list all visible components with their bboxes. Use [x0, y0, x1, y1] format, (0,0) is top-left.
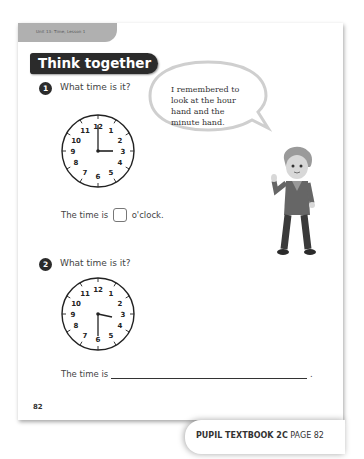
footer-book-title: PUPIL TEXTBOOK 2C: [196, 431, 288, 440]
question-prompt: What time is it?: [60, 258, 131, 268]
answer-row-2: The time is .: [61, 369, 313, 379]
unit-header-tab: Unit 13: Time, Lesson 1: [18, 23, 117, 42]
answer-suffix: .: [310, 369, 313, 379]
boy-character-illustration: [270, 145, 320, 260]
unit-label: Unit 13: Time, Lesson 1: [36, 29, 85, 34]
clock-face-half-past-two: 1212 345 678 91011: [60, 276, 136, 352]
question-prompt: What time is it?: [60, 82, 131, 92]
answer-input-box[interactable]: [113, 208, 127, 222]
answer-write-line[interactable]: [111, 370, 307, 379]
svg-text:6: 6: [96, 336, 101, 344]
page-number: 82: [33, 403, 43, 411]
svg-text:9: 9: [71, 148, 76, 156]
svg-text:6: 6: [96, 173, 101, 181]
answer-prefix: The time is: [61, 210, 108, 220]
svg-text:8: 8: [74, 322, 79, 330]
speech-bubble-text: I remembered to look at the hour hand an…: [171, 84, 261, 128]
svg-text:5: 5: [109, 169, 114, 177]
bubble-line: look at the hour: [171, 95, 261, 106]
svg-text:11: 11: [80, 127, 90, 135]
svg-text:2: 2: [118, 300, 123, 308]
answer-row-1: The time is o'clock.: [61, 208, 164, 222]
svg-text:1: 1: [109, 290, 114, 298]
bubble-line: I remembered to: [171, 84, 261, 95]
answer-prefix: The time is: [61, 369, 108, 379]
svg-text:4: 4: [118, 159, 123, 167]
bubble-line: minute hand.: [171, 117, 261, 128]
svg-text:9: 9: [71, 311, 76, 319]
svg-text:11: 11: [80, 290, 90, 298]
footer-page-ref: PAGE 82: [290, 431, 324, 440]
svg-text:7: 7: [83, 332, 88, 340]
svg-text:4: 4: [118, 322, 123, 330]
section-title: Think together: [38, 55, 151, 71]
svg-text:1: 1: [109, 127, 114, 135]
svg-text:10: 10: [71, 137, 81, 145]
question-number-badge: 1: [39, 82, 52, 95]
answer-suffix: o'clock.: [132, 210, 164, 220]
footer-page-label: PUPIL TEXTBOOK 2C PAGE 82: [185, 420, 345, 454]
svg-text:10: 10: [71, 300, 81, 308]
svg-text:12: 12: [93, 286, 103, 294]
svg-text:3: 3: [121, 148, 126, 156]
svg-text:7: 7: [83, 169, 88, 177]
svg-text:2: 2: [118, 137, 123, 145]
question-number-badge: 2: [39, 258, 52, 271]
svg-text:3: 3: [121, 311, 126, 319]
svg-text:8: 8: [74, 159, 79, 167]
bubble-line: hand and the: [171, 106, 261, 117]
svg-text:5: 5: [109, 332, 114, 340]
think-together-banner: Think together: [30, 53, 158, 74]
clock-face-three-oclock: 1212 345 678 91011: [60, 113, 136, 189]
